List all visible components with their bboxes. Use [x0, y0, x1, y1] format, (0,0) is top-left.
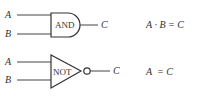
- and-input-a-label: A: [4, 9, 12, 20]
- logic-gates-diagram: A B AND C A · B = C A B NOT C A = C: [0, 0, 197, 97]
- and-gate-group: A B AND C A · B = C: [4, 9, 184, 39]
- not-gate-label: NOT: [53, 67, 72, 77]
- and-output-label: C: [101, 19, 108, 30]
- not-output-label: C: [113, 65, 120, 76]
- not-gate-group: A B NOT C A = C: [4, 55, 173, 88]
- and-input-b-label: B: [5, 28, 11, 39]
- not-input-a-label: A: [4, 56, 12, 67]
- not-input-b-label: B: [5, 74, 11, 85]
- and-gate-label: AND: [55, 20, 75, 30]
- not-expression: A = C: [145, 66, 173, 77]
- inversion-bubble-icon: [84, 68, 90, 74]
- and-expression: A · B = C: [145, 19, 184, 30]
